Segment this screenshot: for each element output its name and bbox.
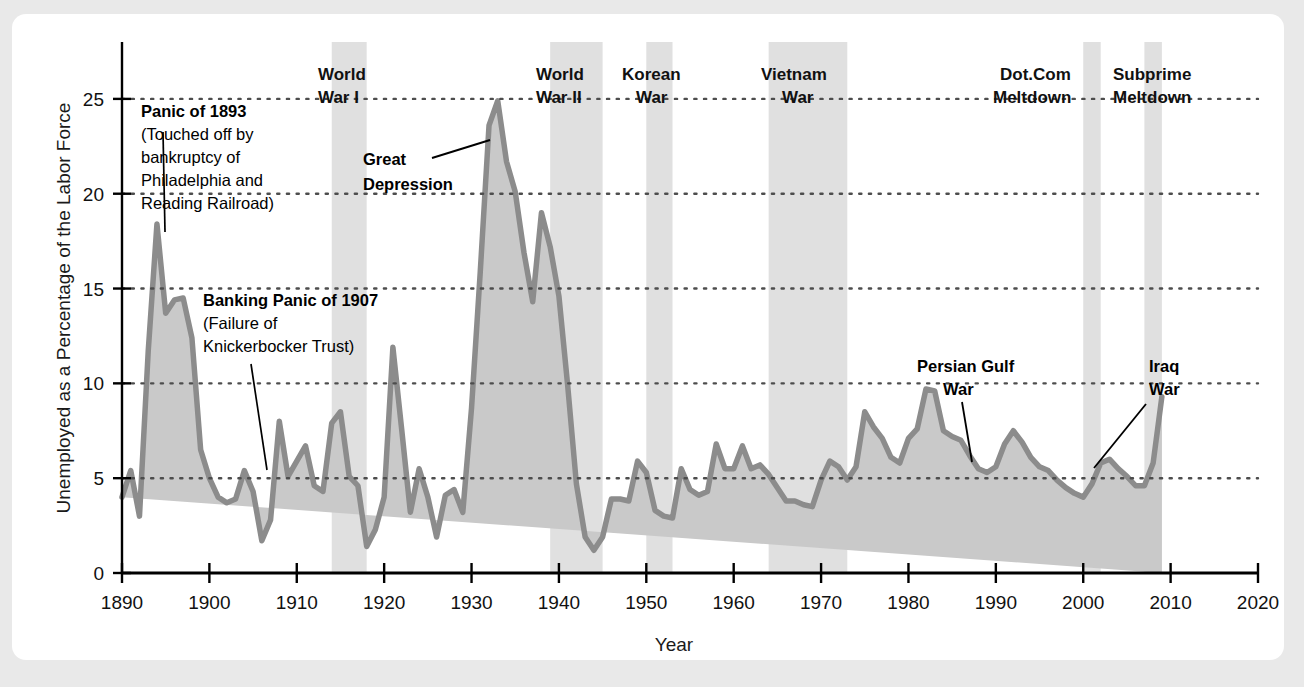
y-tick-label: 15 (83, 279, 104, 300)
annotation-great-depression: Great Depression (363, 140, 490, 193)
x-tick-label: 1970 (800, 592, 842, 613)
unemployment-area-chart: 0510152025 18901900191019201930194019501… (0, 0, 1304, 687)
band-label-ww1-line1: World (318, 65, 366, 84)
band-label-dotcom: Dot.Com Meltdown (993, 65, 1071, 107)
band-label-ww1-line2: War I (318, 88, 359, 107)
annotation-banking-panic-1907-leader (251, 364, 267, 470)
band-label-subprime-line2: Meltdown (1113, 88, 1191, 107)
annotation-banking-panic-1907-line2: Knickerbocker Trust) (203, 337, 354, 355)
band-label-vietnam-line1: Vietnam (761, 65, 827, 84)
annotation-persian-gulf-war-line1: Persian Gulf (917, 357, 1015, 375)
x-tick-label: 1930 (450, 592, 492, 613)
y-tick-label: 10 (83, 373, 104, 394)
annotation-banking-panic-1907-line1: (Failure of (203, 314, 278, 332)
x-tick-label: 2000 (1062, 592, 1104, 613)
y-tick-label: 5 (93, 468, 104, 489)
annotation-iraq-war-leader (1094, 404, 1146, 468)
annotation-banking-panic-1907-title: Banking Panic of 1907 (203, 291, 378, 309)
annotation-panic-1893-title: Panic of 1893 (141, 102, 246, 120)
annotation-iraq-war-line2: War (1149, 380, 1180, 398)
band-label-vietnam-line2: War (782, 88, 814, 107)
band-label-ww2-line1: World (536, 65, 584, 84)
x-tick-label: 1900 (188, 592, 230, 613)
annotation-panic-1893: Panic of 1893 (Touched off by bankruptcy… (141, 102, 274, 232)
annotation-persian-gulf-war-line2: War (943, 380, 974, 398)
band-label-ww2-line2: War II (536, 88, 582, 107)
x-tick-label: 1920 (363, 592, 405, 613)
x-axis-title: Year (655, 634, 694, 655)
x-tick-label: 2020 (1237, 592, 1279, 613)
band-label-korea-line1: Korean (622, 65, 681, 84)
y-tick-label: 0 (93, 563, 104, 584)
annotation-great-depression-line2: Depression (363, 175, 453, 193)
annotation-panic-1893-line2: bankruptcy of (141, 148, 240, 166)
x-tick-label: 1990 (975, 592, 1017, 613)
x-tick-label: 1950 (625, 592, 667, 613)
chart-container: 0510152025 18901900191019201930194019501… (0, 0, 1304, 687)
annotation-iraq-war-line1: Iraq (1149, 357, 1179, 375)
annotation-panic-1893-leader (163, 132, 165, 232)
band-label-dotcom-line1: Dot.Com (1000, 65, 1071, 84)
band-label-dotcom-line2: Meltdown (993, 88, 1071, 107)
annotation-panic-1893-line3: Philadelphia and (141, 171, 263, 189)
annotation-iraq-war: Iraq War (1094, 357, 1180, 468)
band-label-korea-line2: War (636, 88, 668, 107)
y-tick-label: 25 (83, 89, 104, 110)
y-ticks-group: 0510152025 (83, 89, 131, 584)
x-tick-label: 1980 (887, 592, 929, 613)
x-tick-label: 1960 (713, 592, 755, 613)
y-tick-label: 20 (83, 184, 104, 205)
annotation-great-depression-line1: Great (363, 150, 407, 168)
x-tick-label: 2010 (1149, 592, 1191, 613)
x-tick-label: 1940 (538, 592, 580, 613)
band-label-subprime-line1: Subprime (1113, 65, 1191, 84)
page-root: 0510152025 18901900191019201930194019501… (0, 0, 1304, 687)
y-axis-title: Unemployed as a Percentage of the Labor … (53, 103, 74, 514)
x-ticks-group: 1890190019101920193019401950196019701980… (101, 563, 1279, 613)
annotation-panic-1893-line1: (Touched off by (141, 125, 254, 143)
annotation-panic-1893-line4: Reading Railroad) (141, 194, 274, 212)
x-tick-label: 1890 (101, 592, 143, 613)
x-tick-label: 1910 (276, 592, 318, 613)
annotation-great-depression-leader (432, 140, 490, 158)
